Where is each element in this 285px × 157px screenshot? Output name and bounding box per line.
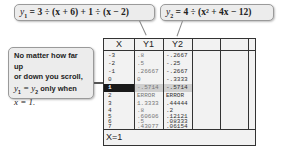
table-row-x[interactable]: 0	[108, 76, 112, 84]
note-line-2: or down you scroll,	[14, 72, 88, 83]
note-line-1: No matter how far up	[14, 51, 88, 72]
table-row-y1[interactable]: .26667	[137, 68, 159, 76]
table-row-y1[interactable]: .8	[137, 52, 144, 60]
col-divider-4	[220, 39, 221, 129]
note-callout: No matter how far up or down you scroll,…	[8, 47, 94, 99]
y2-equation-callout: y2 = 4 ÷ (x² + 4x − 12)	[160, 4, 274, 21]
y2-pointer	[177, 21, 183, 36]
note-line-3: y1 = y2 only when	[14, 83, 88, 97]
table-row-y1[interactable]: .43077	[137, 123, 159, 131]
note-only-when: only when	[38, 84, 77, 93]
note-line-4: x = 1.	[14, 97, 88, 109]
table-row-x[interactable]: -2	[108, 60, 115, 68]
header-y2: Y2	[163, 39, 192, 50]
table-row-x[interactable]: 7	[108, 123, 112, 131]
y2-rhs: = 4 ÷ (x² + 4x − 12)	[173, 7, 251, 17]
header-x: X	[104, 39, 134, 50]
calculator-table-screen: X Y1 Y2 -3 .8 -.2667 -2 .5 -.25 -1 .2666…	[103, 38, 256, 146]
y1-rhs: = 3 ÷ (x + 6) + 1 ÷ (x − 2)	[27, 7, 129, 17]
table-row-y2[interactable]: -.2667	[166, 52, 188, 60]
table-grid: X Y1 Y2 -3 .8 -.2667 -2 .5 -.25 -1 .2666…	[104, 39, 255, 129]
header-divider	[104, 50, 255, 51]
col-divider-5	[248, 39, 249, 129]
table-row-y2[interactable]: -.25	[166, 60, 180, 68]
table-row-x[interactable]: 2	[108, 92, 112, 100]
col-divider-3	[192, 39, 193, 129]
y1-equation-callout: y1 = 3 ÷ (x + 6) + 1 ÷ (x − 2)	[14, 4, 155, 21]
header-y1: Y1	[134, 39, 163, 50]
table-row-x[interactable]: -1	[108, 68, 115, 76]
y1-pointer	[139, 21, 147, 36]
table-row-y1[interactable]: 0	[137, 76, 141, 84]
table-row-x[interactable]: -3	[108, 52, 115, 60]
note-x-value: = 1.	[18, 97, 35, 107]
table-row-y1[interactable]: .5	[137, 60, 144, 68]
table-row-y2[interactable]: .06154	[166, 123, 188, 131]
table-row-y2[interactable]: -.3333	[166, 76, 188, 84]
table-row-x-selected[interactable]: 1	[108, 84, 112, 92]
table-row-y2-selected[interactable]: -.5714	[166, 84, 188, 92]
table-row-y2[interactable]: -.2667	[166, 68, 188, 76]
table-row-y1-selected[interactable]: -.5714	[137, 84, 159, 92]
table-row-y2[interactable]: ERROR	[166, 92, 184, 100]
note-eq: =	[21, 83, 32, 93]
table-row-y1[interactable]: ERROR	[137, 92, 155, 100]
status-line: X=1	[106, 132, 122, 142]
